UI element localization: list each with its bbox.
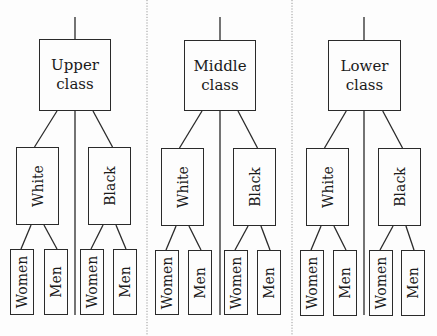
lower-class-box: Lower class — [328, 40, 401, 111]
lower-white-box: White — [306, 148, 349, 226]
lower-white-men-box: Men — [333, 250, 357, 316]
race-to-gender-line — [380, 226, 393, 250]
lower-white-women-box-label: Women — [304, 257, 320, 309]
upper-white-women-box-label: Women — [14, 256, 30, 308]
upper-white-box-label: White — [30, 165, 46, 207]
upper-black-men-box-label: Men — [117, 266, 133, 298]
middle-black-men-box-label: Men — [261, 267, 277, 299]
race-to-gender-line — [189, 226, 201, 250]
middle-black-box: Black — [233, 148, 276, 226]
race-to-gender-line — [166, 226, 176, 250]
class-to-race-line — [238, 111, 258, 148]
lower-white-women-box: Women — [300, 250, 324, 316]
race-to-gender-line — [261, 226, 270, 250]
class-to-race-line — [325, 111, 347, 148]
lower-black-box-label: Black — [392, 167, 408, 206]
lower-class-box-label: Lower class — [341, 57, 389, 95]
race-to-gender-line — [21, 225, 31, 249]
middle-black-women-box: Women — [224, 250, 248, 315]
upper-black-box: Black — [88, 147, 131, 225]
lower-black-men-box: Men — [401, 250, 425, 316]
middle-black-women-box-label: Women — [228, 256, 244, 308]
race-to-gender-line — [235, 226, 248, 250]
race-to-gender-line — [406, 226, 414, 250]
upper-black-men-box: Men — [113, 249, 137, 315]
race-to-gender-line — [311, 226, 321, 250]
middle-white-men-box: Men — [188, 250, 212, 315]
lower-white-box-label: White — [320, 166, 336, 208]
class-to-race-line — [93, 111, 113, 147]
upper-white-women-box: Women — [10, 249, 34, 315]
class-to-race-line — [180, 111, 203, 148]
middle-black-men-box: Men — [257, 250, 281, 315]
middle-white-women-box-label: Women — [159, 256, 175, 308]
upper-white-men-box: Men — [44, 249, 68, 315]
lower-black-women-box: Women — [369, 250, 393, 316]
middle-white-box-label: White — [175, 166, 191, 208]
upper-white-box: White — [16, 147, 59, 225]
middle-white-women-box: Women — [155, 250, 179, 315]
race-to-gender-line — [116, 225, 126, 249]
upper-class-box: Upper class — [39, 39, 111, 111]
lower-black-box: Black — [378, 148, 421, 226]
class-to-race-line — [35, 111, 58, 147]
race-to-gender-line — [334, 226, 346, 250]
upper-black-women-box-label: Women — [84, 256, 100, 308]
upper-black-box-label: Black — [102, 166, 118, 205]
middle-class-box: Middle class — [184, 40, 256, 111]
upper-white-men-box-label: Men — [48, 266, 64, 298]
upper-class-box-label: Upper class — [51, 56, 99, 94]
middle-black-box-label: Black — [247, 167, 263, 206]
class-race-gender-diagram: Upper classWhiteWomenMenBlackWomenMenMid… — [0, 0, 437, 336]
middle-white-box: White — [161, 148, 204, 226]
middle-class-box-label: Middle class — [193, 57, 246, 95]
upper-black-women-box: Women — [80, 249, 104, 315]
lower-white-men-box-label: Men — [337, 267, 353, 299]
class-to-race-line — [383, 111, 403, 148]
middle-white-men-box-label: Men — [192, 267, 208, 299]
race-to-gender-line — [44, 225, 57, 249]
lower-black-men-box-label: Men — [405, 267, 421, 299]
race-to-gender-line — [91, 225, 103, 249]
lower-black-women-box-label: Women — [373, 257, 389, 309]
